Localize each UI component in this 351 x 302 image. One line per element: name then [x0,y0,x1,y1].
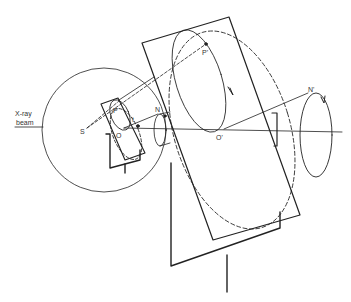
beam-axis [124,128,342,132]
line-Oprime-Nprime [224,93,308,129]
right-circle [300,93,332,177]
label-P: P [113,107,118,114]
label-Pprime: P' [202,49,208,56]
screen-marker [272,113,277,146]
label-S: S [80,128,85,135]
label-O: O [116,132,122,139]
rotation-arrow-large [228,87,233,95]
point-N [164,115,166,117]
line-P-screen [119,77,154,100]
label-t: t [132,116,134,123]
reflection-sphere [42,68,166,192]
xray-geometry-diagram: X-ray beam S O P t N P' O' N' [0,0,351,302]
label-N: N [155,106,160,113]
label-xray: X-ray [15,110,32,118]
cylinder-top [160,112,170,114]
point-t-marker [137,125,140,128]
cylinder-end-N [154,114,166,146]
cylinder-bottom [160,143,170,146]
label-Oprime: O' [216,134,223,141]
large-circle-solid [162,24,237,139]
point-Pprime [205,43,208,46]
label-beam: beam [16,119,34,126]
small-mount-bracket [106,134,140,168]
label-Nprime: N' [308,86,314,93]
film-mount-bracket [171,163,280,266]
